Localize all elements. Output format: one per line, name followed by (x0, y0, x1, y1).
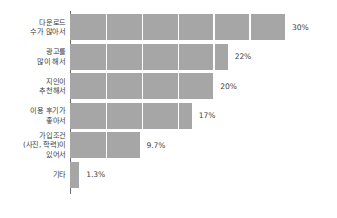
bar-value-label: 1.3% (86, 170, 105, 179)
category-label: 지인이 추천해서 (0, 77, 66, 95)
gridline (178, 10, 179, 178)
bar (70, 162, 79, 188)
bar (70, 44, 228, 70)
bar-value-label: 17% (199, 111, 216, 120)
gridline (213, 10, 214, 178)
category-axis-labels: 다운로드 수가 많아서광고를 많이 해서지인이 추천해서이용 후기가 좋아서가입… (0, 10, 66, 198)
category-label: 광고를 많이 해서 (0, 47, 66, 65)
bar-row: 20% (70, 73, 237, 99)
plot-area: 30%22%20%17%9.7%1.3% (70, 10, 328, 198)
gridline (106, 10, 107, 178)
category-label: 기타 (0, 170, 66, 179)
bar-chart: 다운로드 수가 많아서광고를 많이 해서지인이 추천해서이용 후기가 좋아서가입… (0, 0, 337, 218)
bar-row: 22% (70, 44, 251, 70)
bar-row: 9.7% (70, 132, 165, 158)
category-label: 가입조건 (사진, 학력)이 있어서 (0, 131, 66, 159)
gridline (285, 10, 286, 178)
bar-value-label: 22% (235, 52, 252, 61)
bar-value-label: 20% (220, 82, 237, 91)
category-label: 이용 후기가 좋아서 (0, 106, 66, 124)
category-label: 다운로드 수가 많아서 (0, 18, 66, 36)
bar (70, 103, 192, 129)
gridline (249, 10, 250, 178)
bar (70, 132, 140, 158)
bar-value-label: 9.7% (147, 141, 166, 150)
gridline (142, 10, 143, 178)
bar-value-label: 30% (292, 23, 309, 32)
bar-row: 1.3% (70, 162, 105, 188)
